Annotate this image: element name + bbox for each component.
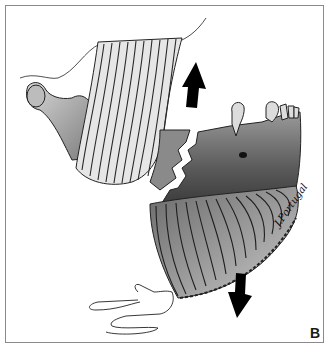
hyoid-outline [89,284,173,334]
tooth-incisor-2 [288,106,294,118]
up-arrow-icon [182,62,206,108]
panel-label: B [310,326,320,340]
condyle-head [27,85,45,107]
tooth-incisor-1 [280,104,288,120]
lower-fan-muscle [150,186,298,298]
medical-illustration-figure: J.Portugal B [0,0,330,350]
illustration-drawing [0,0,330,350]
tooth-incisor-3 [294,107,299,118]
mental-foramen [239,152,247,158]
